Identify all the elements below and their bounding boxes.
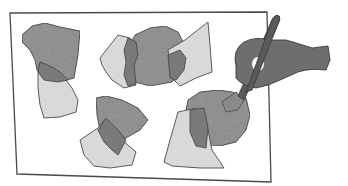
collage-illustration bbox=[0, 0, 348, 186]
hand-shape bbox=[235, 38, 330, 88]
